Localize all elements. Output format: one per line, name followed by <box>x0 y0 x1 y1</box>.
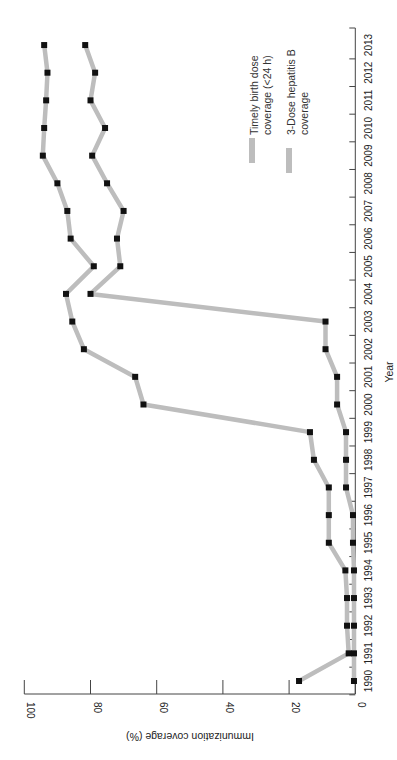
legend-label-timely-birth-dose-line2: coverage (<24 h) <box>261 55 273 135</box>
data-point-marker <box>351 650 357 656</box>
series-line-1 <box>43 45 349 681</box>
series-line-0 <box>85 45 354 681</box>
data-point-marker <box>344 595 350 601</box>
data-point-marker <box>68 236 74 242</box>
data-point-marker <box>326 484 332 490</box>
year-tick-label: 1997 <box>363 476 374 499</box>
y-axis-title: Immunization coverage (%) <box>126 731 254 743</box>
data-point-marker <box>334 374 340 380</box>
data-point-marker <box>117 263 123 269</box>
data-point-marker <box>43 97 49 103</box>
legend-label-3-dose-hepb-line1: 3-Dose hepatitis B <box>285 49 297 135</box>
data-point-marker <box>92 70 98 76</box>
value-tick-label: 60 <box>158 702 169 714</box>
data-point-marker <box>323 319 329 325</box>
year-tick-label: 2005 <box>363 255 374 278</box>
data-point-marker <box>44 70 50 76</box>
data-point-marker <box>326 512 332 518</box>
data-point-marker <box>351 678 357 684</box>
year-tick-label: 2003 <box>363 310 374 333</box>
data-point-marker <box>88 97 94 103</box>
series-lines <box>43 45 354 681</box>
year-tick-label: 2000 <box>363 393 374 416</box>
data-point-marker <box>114 236 120 242</box>
data-point-marker <box>88 291 94 297</box>
data-point-marker <box>104 180 110 186</box>
legend-swatch-3-dose-hepb <box>286 148 292 173</box>
year-tick-label: 2009 <box>363 144 374 167</box>
series-markers <box>40 42 357 684</box>
year-tick-label: 1996 <box>363 504 374 527</box>
data-point-marker <box>54 180 60 186</box>
x-axis-title: Year <box>383 361 395 383</box>
year-tick-label: 1998 <box>363 448 374 471</box>
data-point-marker <box>121 208 127 214</box>
data-point-marker <box>346 650 352 656</box>
data-point-marker <box>344 623 350 629</box>
data-point-marker <box>351 623 357 629</box>
legend-swatch-timely-birth-dose <box>249 138 255 163</box>
value-tick-label: 20 <box>290 702 301 714</box>
year-tick-label: 1995 <box>363 531 374 554</box>
year-tick-label: 2011 <box>363 89 374 111</box>
data-point-marker <box>82 42 88 48</box>
year-tick-label: 1992 <box>363 614 374 637</box>
data-point-marker <box>91 263 97 269</box>
legend-label-3-dose-hepb-line2: coverage <box>298 92 310 135</box>
data-point-marker <box>81 346 87 352</box>
data-point-marker <box>350 540 356 546</box>
data-point-marker <box>307 429 313 435</box>
data-point-marker <box>343 484 349 490</box>
year-tick-label: 1990 <box>363 669 374 692</box>
data-point-marker <box>343 457 349 463</box>
data-point-marker <box>132 374 138 380</box>
data-point-marker <box>350 512 356 518</box>
data-point-marker <box>102 125 108 131</box>
year-tick-label: 2013 <box>363 33 374 56</box>
immunization-coverage-chart: 0204060801001990199119921993199419951996… <box>0 0 397 760</box>
legend-label-timely-birth-dose-line1: Timely birth dose <box>248 55 260 135</box>
data-point-marker <box>64 208 70 214</box>
year-tick-label: 2001 <box>363 365 374 388</box>
value-tick-label: 0 <box>356 702 367 708</box>
data-point-marker <box>351 567 357 573</box>
data-point-marker <box>140 402 146 408</box>
data-point-marker <box>41 42 47 48</box>
year-tick-label: 2004 <box>363 282 374 305</box>
year-tick-label: 2012 <box>363 61 374 84</box>
data-point-marker <box>311 457 317 463</box>
data-point-marker <box>40 153 46 159</box>
value-tick-label: 40 <box>224 702 235 714</box>
year-tick-label: 2007 <box>363 199 374 222</box>
data-point-marker <box>89 153 95 159</box>
data-point-marker <box>342 567 348 573</box>
year-tick-label: 1993 <box>363 586 374 609</box>
year-tick-label: 1999 <box>363 421 374 444</box>
data-point-marker <box>41 125 47 131</box>
year-tick-label: 1994 <box>363 559 374 582</box>
value-tick-label: 80 <box>92 702 103 714</box>
data-point-marker <box>296 678 302 684</box>
data-point-marker <box>351 595 357 601</box>
data-point-marker <box>334 402 340 408</box>
year-tick-label: 2002 <box>363 338 374 361</box>
axes-frame: 0204060801001990199119921993199419951996… <box>24 28 374 719</box>
legend: Timely birth dose coverage (<24 h) 3-Dos… <box>248 49 310 173</box>
year-tick-label: 2010 <box>363 116 374 139</box>
data-point-marker <box>323 346 329 352</box>
year-tick-label: 2008 <box>363 172 374 195</box>
data-point-marker <box>69 319 75 325</box>
value-tick-label: 100 <box>25 702 36 719</box>
data-point-marker <box>326 540 332 546</box>
year-tick-label: 1991 <box>363 642 374 665</box>
data-point-marker <box>343 429 349 435</box>
data-point-marker <box>63 291 69 297</box>
year-tick-label: 2006 <box>363 227 374 250</box>
